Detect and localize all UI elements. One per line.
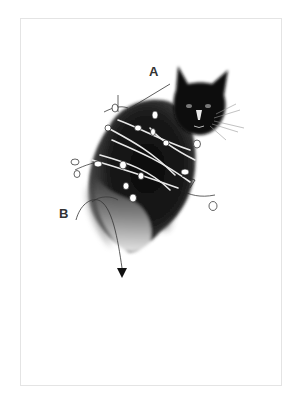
- label-a: A: [149, 64, 158, 79]
- cat-illustration: [0, 0, 299, 397]
- cat-head: [173, 66, 244, 140]
- arrow-down-icon: [117, 268, 127, 278]
- label-b: B: [59, 206, 68, 221]
